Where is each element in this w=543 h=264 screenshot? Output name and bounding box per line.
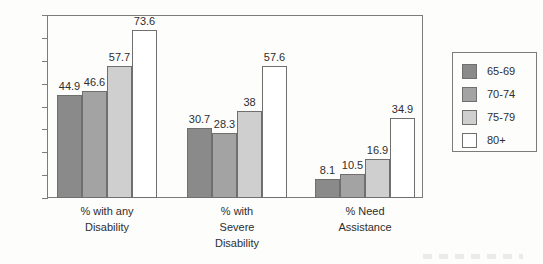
bar-group: 30.728.33857.6	[187, 15, 287, 198]
legend-swatch	[462, 87, 477, 102]
x-axis-category-label-line: % with	[172, 203, 302, 219]
bar[interactable]	[107, 66, 132, 198]
bar[interactable]	[340, 174, 365, 198]
legend-item[interactable]: 70-74	[462, 86, 515, 102]
legend-label: 70-74	[487, 87, 515, 101]
bar[interactable]	[365, 159, 390, 198]
bar[interactable]	[212, 133, 237, 198]
bars-layer: 44.946.657.773.630.728.33857.68.110.516.…	[47, 15, 423, 198]
legend-item[interactable]: 75-79	[462, 109, 515, 125]
bar[interactable]	[57, 95, 82, 198]
y-axis-tick-mark	[42, 198, 48, 199]
x-axis-category-label: % withSevereDisability	[172, 203, 302, 251]
bar[interactable]	[237, 111, 262, 198]
bar-value-label: 34.9	[381, 103, 424, 115]
bar-group: 44.946.657.773.6	[57, 15, 157, 198]
x-axis-category-label-line: Assistance	[300, 219, 430, 235]
legend: 65-6970-7475-7980+	[452, 52, 537, 152]
bar-group: 8.110.516.934.9	[315, 15, 415, 198]
x-axis-category-label-line: Severe	[172, 219, 302, 235]
legend-swatch	[462, 64, 477, 79]
legend-swatch	[462, 110, 477, 125]
x-axis-category-label: % with anyDisability	[42, 203, 172, 235]
x-axis-category-label-line: % with any	[42, 203, 172, 219]
x-axis-category-label-line: % Need	[300, 203, 430, 219]
legend-item[interactable]: 65-69	[462, 63, 515, 79]
y-axis: 01020304050607080	[0, 0, 47, 264]
bar-value-label: 57.6	[253, 51, 296, 63]
legend-label: 80+	[487, 133, 506, 147]
bar[interactable]	[390, 118, 415, 198]
bar[interactable]	[315, 179, 340, 198]
bar[interactable]	[132, 30, 157, 198]
scan-artifact	[423, 254, 523, 259]
bar[interactable]	[187, 128, 212, 198]
bar[interactable]	[262, 66, 287, 198]
legend-label: 75-79	[487, 110, 515, 124]
legend-item[interactable]: 80+	[462, 132, 506, 148]
legend-swatch	[462, 133, 477, 148]
bar-value-label: 73.6	[123, 15, 166, 27]
x-axis-category-labels: % with anyDisability% withSevereDisabili…	[47, 203, 423, 253]
x-axis-category-label-line: Disability	[42, 219, 172, 235]
x-axis-category-label-line: Disability	[172, 235, 302, 251]
legend-label: 65-69	[487, 64, 515, 78]
bar[interactable]	[82, 91, 107, 198]
grouped-bar-chart: 01020304050607080 44.946.657.773.630.728…	[0, 0, 543, 264]
x-axis-category-label: % NeedAssistance	[300, 203, 430, 235]
